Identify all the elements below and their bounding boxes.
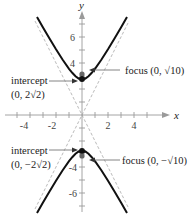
hyperbola-diagram: x y -4 -2 2 4 6 4 -4 -6 focus (0, √10) [0, 0, 191, 214]
lower-intercept-label: intercept [11, 145, 48, 156]
upper-focus-point [79, 71, 84, 76]
x-tick-neg2: -2 [48, 120, 56, 131]
x-axis [5, 112, 167, 118]
x-tick-2: 2 [106, 120, 111, 131]
x-tick-neg4: -4 [20, 120, 28, 131]
x-tick-4: 4 [132, 120, 137, 131]
lower-intercept-coord: (0, −2√2) [11, 159, 51, 171]
y-axis-label: y [78, 0, 84, 11]
y-tick-4: 4 [70, 58, 75, 69]
upper-vertex-point [79, 76, 85, 82]
y-tick-neg6: -6 [69, 188, 77, 199]
lower-focus-point [79, 153, 84, 158]
y-tick-6: 6 [70, 32, 75, 43]
lower-focus-label: focus (0, −√10) [122, 155, 188, 167]
upper-intercept-coord: (0, 2√2) [11, 89, 45, 101]
y-axis-arrow-icon [79, 11, 85, 19]
y-tick-neg4: -4 [69, 162, 77, 173]
x-axis-arrow-icon [162, 112, 170, 118]
x-axis-label: x [173, 109, 179, 121]
upper-intercept-label: intercept [11, 75, 48, 86]
upper-focus-label: focus (0, √10) [125, 65, 185, 77]
upper-intercept-arrowhead-icon [72, 79, 78, 84]
y-axis [79, 14, 85, 212]
lower-vertex-point [79, 148, 85, 154]
